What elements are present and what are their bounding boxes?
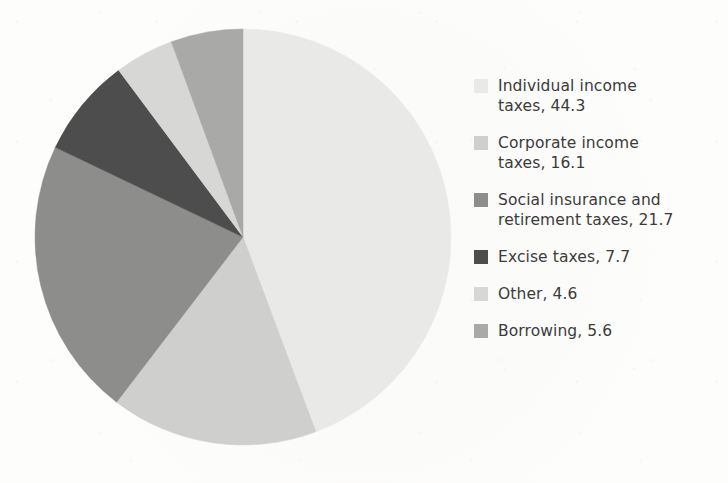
legend-item[interactable]: Excise taxes, 7.7 xyxy=(474,247,724,267)
legend-swatch-icon xyxy=(474,136,488,150)
legend-item-label: Borrowing, 5.6 xyxy=(498,321,612,341)
legend-swatch-icon xyxy=(474,324,488,338)
legend-item-label: Corporate incometaxes, 16.1 xyxy=(498,133,639,173)
legend-item[interactable]: Other, 4.6 xyxy=(474,284,724,304)
legend-item[interactable]: Individual incometaxes, 44.3 xyxy=(474,76,724,116)
legend-item-label: Other, 4.6 xyxy=(498,284,578,304)
legend-swatch-icon xyxy=(474,287,488,301)
legend-item[interactable]: Corporate incometaxes, 16.1 xyxy=(474,133,724,173)
legend-item-label: Individual incometaxes, 44.3 xyxy=(498,76,637,116)
legend-item-label: Social insurance andretirement taxes, 21… xyxy=(498,190,673,230)
pie-chart-svg xyxy=(0,0,470,483)
chart-legend: Individual incometaxes, 44.3Corporate in… xyxy=(474,76,724,358)
legend-swatch-icon xyxy=(474,193,488,207)
pie-chart-area xyxy=(0,0,470,483)
chart-page: Individual incometaxes, 44.3Corporate in… xyxy=(0,0,728,483)
legend-swatch-icon xyxy=(474,250,488,264)
legend-item-label: Excise taxes, 7.7 xyxy=(498,247,630,267)
legend-item[interactable]: Social insurance andretirement taxes, 21… xyxy=(474,190,724,230)
legend-item[interactable]: Borrowing, 5.6 xyxy=(474,321,724,341)
pie-slice-group xyxy=(35,29,451,445)
legend-swatch-icon xyxy=(474,79,488,93)
